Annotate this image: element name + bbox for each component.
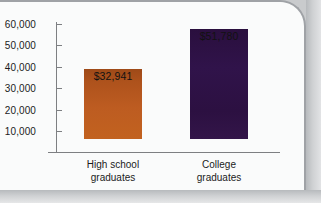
x-axis-category-college-graduates: College graduates [179, 159, 259, 184]
x-axis-line [48, 152, 280, 153]
category-label-line-2: graduates [179, 172, 259, 185]
category-label-line-2: graduates [73, 172, 153, 185]
chart-screenshot: 60,000 50,000 40,000 30,000 20,000 10,00… [0, 0, 321, 203]
bar-chart-plot-area: 60,000 50,000 40,000 30,000 20,000 10,00… [0, 0, 306, 190]
category-label-line-1: High school [73, 159, 153, 172]
y-axis-label-40000: 40,000 [0, 62, 36, 73]
y-axis-tick-10000 [57, 131, 62, 132]
y-axis-label-10000: 10,000 [0, 126, 36, 137]
page-edge-right [306, 0, 321, 203]
y-axis-tick-30000 [57, 88, 62, 89]
y-axis-label-50000: 50,000 [0, 40, 36, 51]
bar-college-graduates [190, 29, 248, 139]
x-axis-category-high-school-graduates: High school graduates [73, 159, 153, 184]
y-axis-tick-40000 [57, 67, 62, 68]
y-axis-tick-50000 [57, 45, 62, 46]
bar-value-label-college-graduates: $51,780 [185, 30, 253, 42]
y-axis-tick-60000 [57, 24, 62, 25]
y-axis-label-30000: 30,000 [0, 83, 36, 94]
category-label-line-1: College [179, 159, 259, 172]
y-axis-label-60000: 60,000 [0, 19, 36, 30]
y-axis-label-20000: 20,000 [0, 105, 36, 116]
page-edge-bottom [0, 190, 321, 203]
y-axis-tick-20000 [57, 110, 62, 111]
bar-value-label-high-school-graduates: $32,941 [79, 70, 147, 82]
